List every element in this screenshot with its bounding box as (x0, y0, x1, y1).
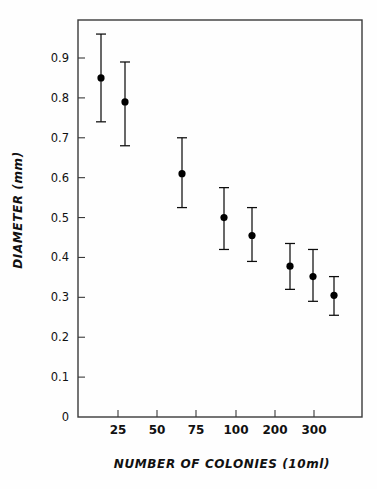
y-tick-label: 0.8 (51, 91, 69, 105)
x-axis-tick-labels: 255075100200300 (110, 423, 327, 437)
data-point-marker (97, 74, 104, 81)
x-tick-label: 50 (149, 423, 166, 437)
x-tick-label: 300 (301, 423, 326, 437)
y-tick-label: 0.1 (51, 370, 69, 384)
data-point-marker (286, 263, 293, 270)
figure-container: 00.10.20.30.40.50.60.70.80.9 25507510020… (0, 0, 377, 489)
data-point-marker (330, 292, 337, 299)
x-tick-label: 25 (110, 423, 127, 437)
error-bars-group (96, 34, 339, 315)
plot-frame (78, 20, 362, 417)
y-tick-label: 0.7 (51, 131, 69, 145)
y-axis-title: DIAMETER (mm) (11, 151, 25, 268)
y-tick-label: 0.3 (51, 290, 69, 304)
x-tick-label: 200 (262, 423, 287, 437)
y-tick-label: 0 (62, 410, 69, 424)
y-tick-label: 0.2 (51, 330, 69, 344)
scatter-plot: 00.10.20.30.40.50.60.70.80.9 25507510020… (0, 0, 377, 489)
y-tick-label: 0.9 (51, 51, 69, 65)
data-points-group (97, 74, 337, 299)
data-point-marker (121, 98, 128, 105)
x-axis-title: NUMBER OF COLONIES (10ml) (114, 457, 330, 471)
y-tick-label: 0.4 (51, 250, 69, 264)
data-point-marker (309, 273, 316, 280)
x-tick-label: 100 (223, 423, 248, 437)
data-point-marker (220, 214, 227, 221)
x-tick-label: 75 (188, 423, 205, 437)
data-point-marker (248, 232, 255, 239)
x-axis-tick-marks (118, 410, 314, 417)
y-tick-label: 0.6 (51, 171, 69, 185)
data-point-marker (178, 170, 185, 177)
y-tick-label: 0.5 (51, 211, 69, 225)
y-axis-tick-marks (78, 58, 85, 377)
y-axis-tick-labels: 00.10.20.30.40.50.60.70.80.9 (51, 51, 69, 424)
